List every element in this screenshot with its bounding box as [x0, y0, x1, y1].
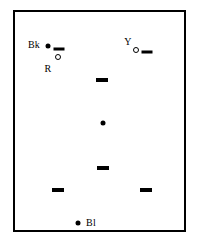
marker-y-dash	[142, 51, 153, 54]
label-r: R	[45, 64, 52, 74]
marker-r-open-circle	[55, 54, 61, 60]
label-bk: Bk	[28, 40, 40, 50]
label-bl: Bl	[86, 218, 96, 228]
marker-bk-dash	[54, 48, 65, 51]
label-y: Y	[124, 37, 131, 47]
marker-right-dash	[140, 188, 152, 192]
marker-center-dash-lower	[97, 166, 109, 170]
marker-center-filled-circle	[101, 121, 106, 126]
marker-center-dash-upper	[96, 78, 108, 82]
marker-bk-filled-circle	[46, 44, 51, 49]
marker-bl-filled-circle	[76, 221, 81, 226]
figure-container: Bk R Y Bl	[0, 0, 198, 245]
marker-y-open-circle	[133, 47, 139, 53]
plot-frame: Bk R Y Bl	[13, 10, 186, 232]
marker-left-dash	[52, 188, 64, 192]
